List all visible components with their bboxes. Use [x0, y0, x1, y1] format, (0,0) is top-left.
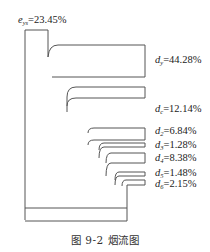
branch-label-dc: dc=12.14% [155, 104, 201, 116]
value: =8.38% [164, 152, 197, 163]
branch-label-dy: dy=44.28% [155, 55, 201, 67]
value: =12.14% [163, 103, 201, 114]
branch-d4 [106, 153, 145, 176]
input-stream [25, 30, 48, 220]
branch-label-d6: d6=2.15% [155, 179, 197, 191]
value: =44.28% [163, 54, 201, 65]
branch-d2 [88, 128, 145, 145]
branch-dy [48, 45, 145, 77]
branch-d5 [115, 172, 145, 185]
branch-label-d4: d4=8.38% [155, 153, 197, 165]
branch-label-d3: d3=1.28% [155, 140, 197, 152]
value: =2.15% [164, 178, 197, 189]
input-label: eys=23.45% [18, 15, 66, 27]
value: =1.28% [164, 139, 197, 150]
branch-d3 [99, 143, 145, 158]
branch-label-d2: d2=6.84% [155, 126, 197, 138]
value: =23.45% [28, 14, 66, 25]
value: =1.48% [164, 167, 197, 178]
figure-caption: 图 9-2 烟流图 [0, 232, 210, 247]
branch-dc [67, 87, 145, 112]
branch-d6 [122, 180, 145, 221]
value: =6.84% [164, 125, 197, 136]
return-stream [25, 208, 127, 221]
